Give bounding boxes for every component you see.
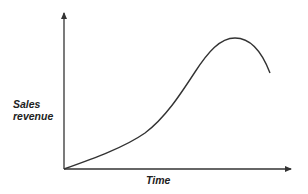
sales-revenue-chart: Sales revenue Time bbox=[0, 0, 308, 194]
sales-curve bbox=[64, 38, 270, 169]
x-axis-label: Time bbox=[146, 174, 170, 186]
y-axis-label: Sales revenue bbox=[13, 98, 53, 122]
y-axis-label-line1: Sales bbox=[13, 98, 53, 110]
y-axis-label-line2: revenue bbox=[13, 110, 53, 122]
chart-svg bbox=[0, 0, 308, 194]
